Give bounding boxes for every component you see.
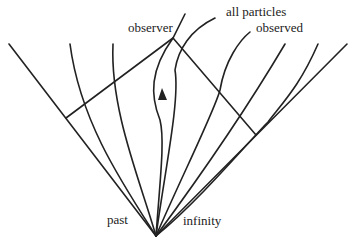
label-past: past bbox=[107, 212, 128, 228]
observer-past-cone-left bbox=[66, 38, 173, 118]
arrow-icon bbox=[158, 88, 167, 100]
worldline-4 bbox=[156, 32, 250, 236]
penrose-light-cone-diagram bbox=[0, 0, 355, 248]
past-null-cone-left bbox=[9, 44, 156, 236]
worldline-6 bbox=[156, 44, 318, 236]
observer-past-cone-right bbox=[173, 38, 256, 135]
label-observed: observed bbox=[256, 20, 303, 36]
label-all-particles: all particles bbox=[226, 4, 286, 20]
label-infinity: infinity bbox=[183, 213, 221, 229]
label-observer: observer bbox=[128, 20, 173, 36]
